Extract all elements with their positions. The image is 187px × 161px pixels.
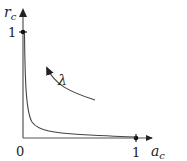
- x-tick-label: 1: [132, 145, 140, 160]
- origin-label: 0: [16, 144, 24, 159]
- lambda-arrow: [47, 68, 95, 100]
- boundary-curve: [25, 33, 137, 137]
- y-tick-label: 1: [8, 25, 16, 40]
- x-axis-label: ac: [151, 143, 165, 161]
- y-axis-label: rc: [4, 4, 17, 22]
- lambda-label: λ: [57, 72, 67, 88]
- x-point-1: [134, 136, 139, 141]
- phase-diagram: rc 1 0 1 ac λ: [0, 0, 187, 161]
